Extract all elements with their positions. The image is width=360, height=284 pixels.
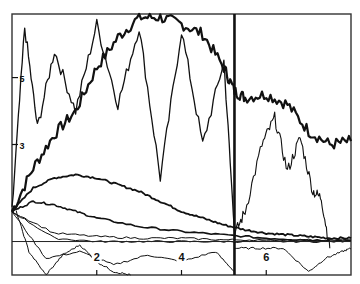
x-tick-label: 4 [178, 251, 185, 263]
chart-plot: 246 35 [0, 0, 360, 284]
x-tick-label: 6 [263, 251, 269, 263]
x-tick-label: 2 [94, 251, 100, 263]
y-tick-label: 3 [19, 141, 24, 151]
y-tick-label: 5 [19, 74, 24, 84]
